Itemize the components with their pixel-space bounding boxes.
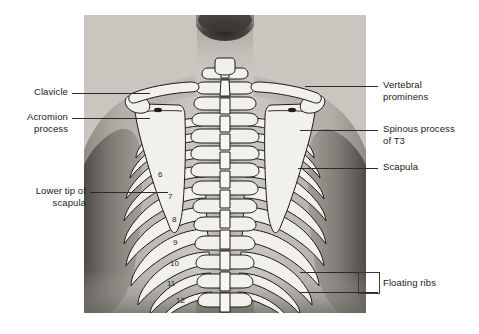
label-floating-ribs: Floating ribs xyxy=(383,277,479,289)
label-vertebral-prominens-line-1: Vertebral xyxy=(383,79,479,91)
leader-vertebral-prominens xyxy=(305,86,378,87)
label-acromion-process-line-1: Acromion xyxy=(0,111,68,123)
skeleton-overlay xyxy=(124,58,326,321)
leader-scapula xyxy=(298,168,378,169)
anatomy-figure: 6789101112 Clavicle Acromionprocess Lowe… xyxy=(0,0,479,334)
rib-number-12: 12 xyxy=(176,296,185,305)
rib-number-7: 7 xyxy=(168,192,173,201)
rib-number-6: 6 xyxy=(158,170,163,179)
leader-clavicle xyxy=(72,93,150,94)
label-acromion-process: Acromionprocess xyxy=(0,111,68,134)
rib-number-10: 10 xyxy=(170,259,179,268)
label-lower-tip-of-scapula: Lower tip ofscapula xyxy=(0,185,86,208)
vertebra-prominens-c7 xyxy=(215,58,235,75)
label-vertebral-prominens-line-2: prominens xyxy=(383,91,479,103)
leader-lower-tip-of-scapula xyxy=(90,192,168,193)
label-scapula: Scapula xyxy=(383,161,479,173)
photograph xyxy=(84,8,366,321)
label-floating-ribs-line-1: Floating ribs xyxy=(383,277,479,289)
scapular-notch-left xyxy=(154,108,162,112)
rib-number-8: 8 xyxy=(172,215,177,224)
label-spinous-process-of-t3: Spinous processof T3 xyxy=(383,123,479,146)
label-clavicle-line-1: Clavicle xyxy=(0,86,68,98)
floating-ribs-bracket xyxy=(358,272,380,294)
label-spinous-process-of-t3-line-2: of T3 xyxy=(383,135,479,147)
scapular-notch-right xyxy=(288,108,296,112)
label-spinous-process-of-t3-line-1: Spinous process xyxy=(383,123,479,135)
label-lower-tip-of-scapula-line-1: Lower tip of xyxy=(0,185,86,197)
label-vertebral-prominens: Vertebralprominens xyxy=(383,79,479,102)
label-lower-tip-of-scapula-line-2: scapula xyxy=(0,197,86,209)
label-acromion-process-line-2: process xyxy=(0,123,68,135)
leader-acromion-process xyxy=(72,118,150,119)
rib-number-11: 11 xyxy=(167,279,176,288)
leader-spinous-process-of-t3 xyxy=(300,130,378,131)
rib-number-9: 9 xyxy=(173,238,178,247)
label-scapula-line-1: Scapula xyxy=(383,161,479,173)
label-clavicle: Clavicle xyxy=(0,86,68,98)
